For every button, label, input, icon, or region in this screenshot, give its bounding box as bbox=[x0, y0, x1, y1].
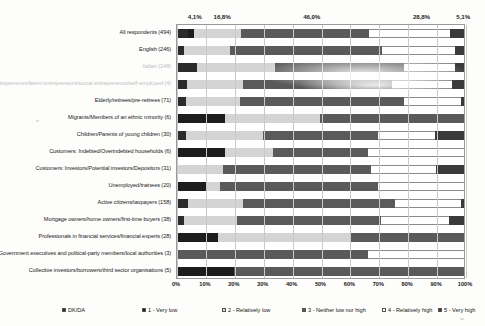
plot-area bbox=[176, 24, 465, 279]
bar-segment-4 bbox=[368, 250, 464, 259]
bar-segment-0 bbox=[177, 29, 188, 38]
category-label: Customers: Investors/Potential investors… bbox=[36, 165, 171, 172]
bar-segment-0 bbox=[177, 46, 184, 55]
category-label: Unemployed/trainees (20) bbox=[109, 182, 171, 189]
x-tick-label: 30% bbox=[257, 281, 268, 287]
bar-segment-1 bbox=[177, 148, 225, 157]
stacked-bar bbox=[177, 97, 464, 106]
bar-row bbox=[177, 267, 464, 276]
bar-segment-2 bbox=[186, 97, 241, 106]
bar-row bbox=[177, 114, 464, 123]
category-label: All respondents (494) bbox=[120, 29, 172, 36]
x-tick-label: 90% bbox=[430, 281, 441, 287]
legend-item[interactable]: DK/DA bbox=[62, 307, 85, 313]
stacked-bar-chart: 4,1%16,8%46,0%28,8%5,1% All respondents … bbox=[0, 0, 485, 326]
legend-label: DK/DA bbox=[68, 307, 85, 313]
bar-row bbox=[177, 233, 464, 242]
stacked-bar bbox=[177, 250, 464, 259]
bar-segment-0 bbox=[177, 199, 188, 208]
legend-item[interactable]: 3 - Neither low nor high bbox=[302, 307, 366, 313]
bar-segment-3 bbox=[237, 216, 381, 225]
bar-segment-3 bbox=[263, 131, 378, 140]
bar-segment-5 bbox=[436, 165, 464, 174]
bar-row bbox=[177, 250, 464, 259]
x-tick-label: 100% bbox=[458, 281, 472, 287]
x-tick-label: 70% bbox=[373, 281, 384, 287]
bar-segment-1 bbox=[177, 182, 206, 191]
category-label: Children/Parents of young children (30) bbox=[77, 131, 171, 138]
bar-segment-2 bbox=[186, 131, 263, 140]
bar-segment-4 bbox=[404, 97, 461, 106]
gridline bbox=[264, 25, 265, 278]
bar-segment-4 bbox=[378, 182, 464, 191]
bar-segment-5 bbox=[449, 216, 464, 225]
stacked-bar bbox=[177, 267, 464, 276]
bar-segment-5 bbox=[455, 46, 464, 55]
bar-row bbox=[177, 80, 464, 89]
gridline bbox=[466, 25, 467, 278]
bar-segment-2 bbox=[206, 182, 220, 191]
bar-row bbox=[177, 63, 464, 72]
gridline bbox=[350, 25, 351, 278]
stacked-bar bbox=[177, 165, 464, 174]
legend-item[interactable]: 5 - Very high bbox=[438, 307, 475, 313]
stacked-bar bbox=[177, 46, 464, 55]
bar-segment-3 bbox=[220, 182, 378, 191]
category-label: Government executives and political-part… bbox=[0, 250, 171, 257]
category-label: Entrepreneurs/latent entrepreneurs/socia… bbox=[0, 80, 171, 87]
x-axis: 0%10%20%30%40%50%60%70%80%90%100% bbox=[176, 281, 465, 291]
category-label: Customers: Indebted/Overindebted househo… bbox=[49, 148, 171, 155]
bar-segment-4 bbox=[371, 165, 436, 174]
bar-segment-3 bbox=[230, 46, 382, 55]
stacked-bar bbox=[177, 148, 464, 157]
bar-row bbox=[177, 46, 464, 55]
bar-segment-5 bbox=[452, 80, 463, 89]
bar-segment-5 bbox=[450, 29, 464, 38]
stacked-bar bbox=[177, 114, 464, 123]
top-value-label: 5,1% bbox=[456, 13, 470, 20]
stacked-bar bbox=[177, 80, 464, 89]
category-label: Mortgage owners/home owners/first-time b… bbox=[44, 216, 171, 223]
bar-segment-3 bbox=[243, 199, 395, 208]
bar-segment-3 bbox=[275, 63, 404, 72]
legend-swatch-icon bbox=[302, 308, 306, 312]
bar-segment-3 bbox=[243, 80, 392, 89]
legend-label: 5 - Very high bbox=[444, 307, 475, 313]
legend-label: 4 - Relatively high bbox=[388, 307, 432, 313]
bar-segment-5 bbox=[455, 63, 464, 72]
stacked-bar bbox=[177, 131, 464, 140]
bar-segment-4 bbox=[378, 131, 435, 140]
bar-segment-2 bbox=[225, 114, 321, 123]
x-tick-label: 20% bbox=[228, 281, 239, 287]
bar-segment-4 bbox=[368, 148, 464, 157]
bar-segment-1 bbox=[177, 233, 218, 242]
bar-segment-3 bbox=[234, 267, 464, 276]
bar-row bbox=[177, 131, 464, 140]
legend-item[interactable]: 4 - Relatively high bbox=[382, 307, 432, 313]
bar-segment-0 bbox=[177, 97, 186, 106]
gridline bbox=[177, 25, 178, 278]
legend-item[interactable]: 1 - Very low bbox=[142, 307, 177, 313]
category-label: Professionals in financial services/fina… bbox=[39, 233, 171, 240]
x-tick-label: 50% bbox=[315, 281, 326, 287]
legend-item[interactable]: 2 - Relatively low bbox=[222, 307, 270, 313]
bar-rows bbox=[177, 25, 464, 278]
chart-legend: DK/DA1 - Very low2 - Relatively low3 - N… bbox=[0, 303, 485, 317]
bar-row bbox=[177, 165, 464, 174]
legend-swatch-icon bbox=[438, 308, 442, 312]
bar-segment-4 bbox=[381, 216, 449, 225]
gridline bbox=[408, 25, 409, 278]
bar-segment-2 bbox=[177, 165, 223, 174]
stacked-bar bbox=[177, 29, 464, 38]
bar-segment-4 bbox=[392, 80, 452, 89]
x-tick-label: 60% bbox=[344, 281, 355, 287]
category-label: Active citizens/taxpayers (158) bbox=[98, 199, 171, 206]
bar-row bbox=[177, 97, 464, 106]
bar-row bbox=[177, 182, 464, 191]
category-axis: All respondents (494)English (246)Italia… bbox=[0, 24, 174, 279]
gridline bbox=[322, 25, 323, 278]
bar-segment-0 bbox=[177, 63, 197, 72]
stacked-bar bbox=[177, 199, 464, 208]
category-label: Migrants/Members of an ethnic minority (… bbox=[68, 114, 171, 121]
gridline bbox=[379, 25, 380, 278]
